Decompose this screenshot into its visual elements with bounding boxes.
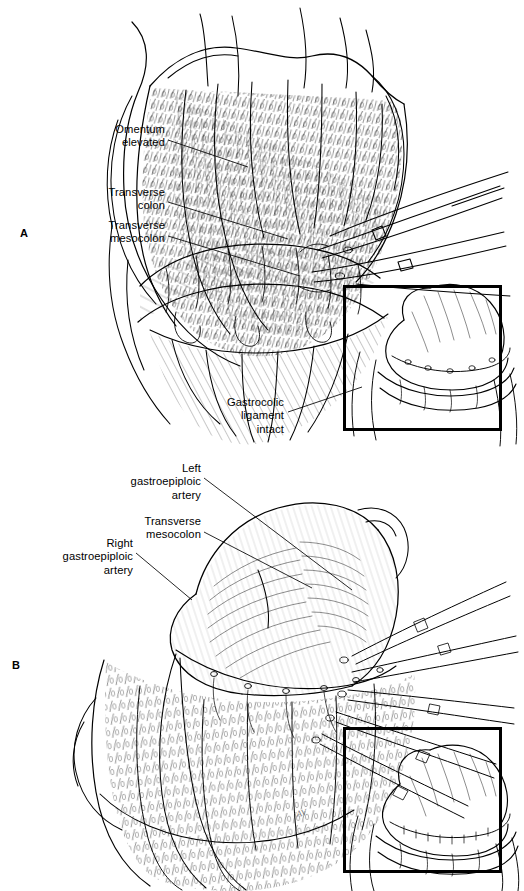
- panel-b: B Left gastroepiploic artery Transverse …: [0, 450, 524, 891]
- label-gastrocolic-ligament-intact: Gastrocolic ligament intact: [188, 396, 284, 436]
- label-right-gastroepiploic-artery: Right gastroepiploic artery: [20, 537, 133, 577]
- label-transverse-colon: Transverse colon: [52, 186, 165, 213]
- label-transverse-mesocolon: Transverse mesocolon: [44, 219, 165, 246]
- panel-b-inset-box: [343, 727, 502, 873]
- label-omentum-elevated: Omentum elevated: [60, 123, 165, 150]
- panel-letter-a: A: [20, 228, 28, 239]
- panel-a-inset-box: [343, 285, 502, 431]
- label-left-gastroepiploic-artery: Left gastroepiploic artery: [88, 462, 201, 502]
- panel-letter-b: B: [12, 660, 20, 671]
- panel-a: A Omentum elevated Transverse colon Tran…: [0, 0, 524, 450]
- surgical-illustration-figure: A Omentum elevated Transverse colon Tran…: [0, 0, 524, 891]
